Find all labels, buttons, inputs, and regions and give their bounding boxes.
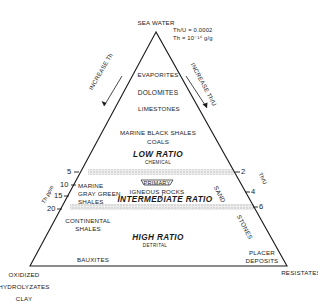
right-tick-6: 6 [259, 203, 263, 211]
continental-label: CONTINENTAL [65, 218, 110, 224]
sea-water-thu-value: Th/U = 0.0002 [173, 28, 213, 34]
continental-shales-label: SHALES [75, 226, 101, 232]
evaporites-label: EVAPORITES [137, 72, 178, 78]
left-tick-10: 10 [60, 181, 69, 189]
coals-label: COALS [147, 139, 169, 145]
dolomites-label: DOLOMITES [138, 90, 179, 97]
shales-label: SHALES [78, 199, 104, 205]
bauxites-label: BAUXITES [77, 257, 109, 263]
right-tick-4: 4 [251, 188, 255, 196]
deposits-label: DEPOSITS [246, 258, 279, 264]
increase-th-arrow [104, 76, 122, 106]
placer-label: PLACER [249, 250, 275, 256]
apex-resistates: RESISTATES [281, 270, 318, 276]
apex-sea-water: SEA WATER [137, 20, 174, 26]
gray-green-label: GRAY GREEN [78, 191, 121, 197]
left-tick-15: 15 [54, 192, 63, 200]
low-ratio-title: LOW RATIO [133, 151, 183, 159]
low-ratio-subtitle: CHEMICAL [145, 161, 171, 166]
thu-ratio-ternary-diagram: SEA WATER Th/U = 0.0002 Th = 10⁻¹⁴ g/g O… [0, 0, 318, 308]
apex-hydrolyzates: HYDROLYZATES [0, 284, 50, 290]
high-ratio-title: HIGH RATIO [132, 234, 184, 242]
upper-boundary-band [88, 169, 234, 175]
left-tick-5: 5 [67, 168, 71, 176]
primary-label: PRIMARY [144, 181, 171, 187]
marine-black-shales-label: MARINE BLACK SHALES [120, 130, 196, 136]
limestones-label: LIMESTONES [138, 106, 180, 112]
apex-oxidized: OXIDIZED [9, 272, 40, 278]
intermediate-ratio-title: INTERMEDIATE RATIO [117, 196, 212, 204]
left-tick-20: 20 [47, 205, 56, 213]
marine-label: MARINE [78, 183, 103, 189]
sea-water-th-value: Th = 10⁻¹⁴ g/g [173, 36, 213, 42]
high-ratio-subtitle: DETRITAL [143, 244, 167, 249]
right-tick-2: 2 [241, 168, 245, 176]
apex-clay: CLAY [16, 296, 33, 302]
